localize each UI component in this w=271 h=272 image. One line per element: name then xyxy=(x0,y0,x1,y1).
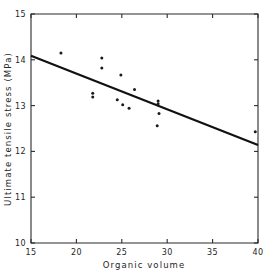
x-tick-label: 35 xyxy=(207,248,218,257)
data-point xyxy=(91,92,94,95)
y-tick-label: 11 xyxy=(15,193,26,202)
data-point xyxy=(116,98,119,101)
data-point xyxy=(157,102,160,105)
x-tick-label: 15 xyxy=(26,248,37,257)
x-axis-title: Organic volume xyxy=(103,260,186,270)
data-point xyxy=(157,100,160,103)
axis-ticks xyxy=(31,14,258,243)
plot-frame xyxy=(31,14,258,243)
data-point xyxy=(59,51,62,54)
scatter-plot: 152025303540101112131415 Organic volume … xyxy=(0,0,271,272)
data-point xyxy=(91,95,94,98)
y-tick-label: 10 xyxy=(15,239,26,248)
data-point xyxy=(100,67,103,70)
fit-line xyxy=(31,56,258,145)
data-point xyxy=(100,56,103,59)
data-point xyxy=(158,112,161,115)
x-tick-label: 40 xyxy=(253,248,264,257)
x-tick-label: 25 xyxy=(116,248,127,257)
data-point xyxy=(254,130,257,133)
data-point xyxy=(121,103,124,106)
data-point xyxy=(133,88,136,91)
y-tick-label: 12 xyxy=(15,147,26,156)
data-points xyxy=(59,51,256,133)
y-axis-title: Ultimate tensile stress (MPa) xyxy=(3,52,13,206)
plot-axes xyxy=(31,14,258,243)
data-point xyxy=(119,73,122,76)
y-tick-label: 14 xyxy=(15,56,26,65)
regression-line xyxy=(31,56,258,145)
y-tick-label: 13 xyxy=(15,102,26,111)
y-tick-label: 15 xyxy=(15,10,26,19)
data-point xyxy=(128,107,131,110)
x-tick-label: 20 xyxy=(71,248,82,257)
chart-figure: 152025303540101112131415 Organic volume … xyxy=(0,0,271,272)
x-tick-label: 30 xyxy=(162,248,173,257)
data-point xyxy=(156,124,159,127)
